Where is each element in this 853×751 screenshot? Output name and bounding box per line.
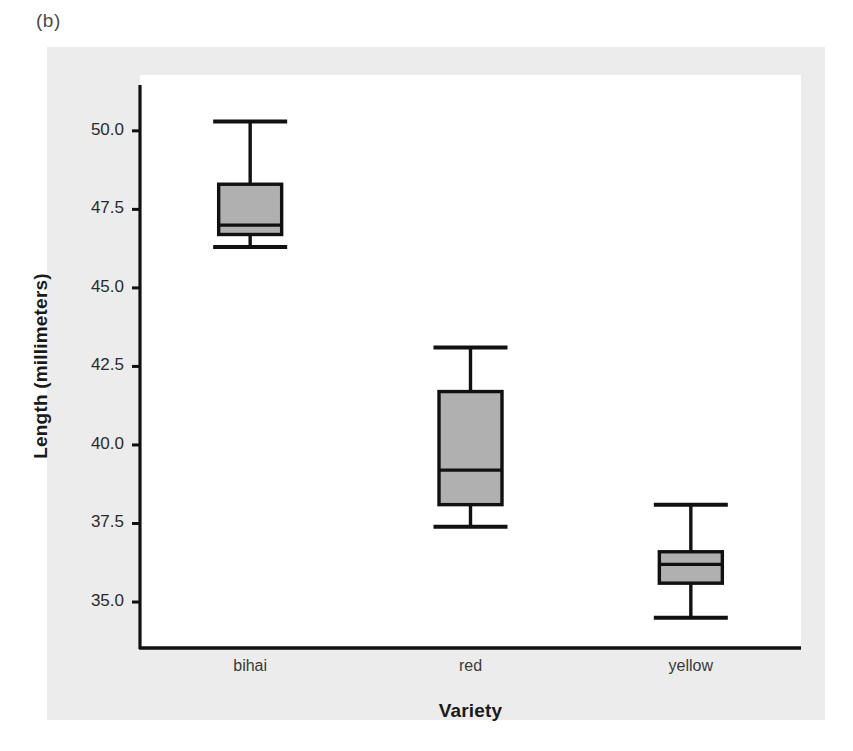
boxplot-graphic xyxy=(0,0,853,751)
box-plot-red xyxy=(434,348,508,527)
box-iqr xyxy=(659,552,722,583)
box-plot-series xyxy=(213,121,728,617)
box-iqr xyxy=(439,392,502,505)
box-plot-bihai xyxy=(213,121,287,247)
box-iqr xyxy=(219,184,282,234)
box-plot-yellow xyxy=(654,505,728,618)
figure-panel: (b) Length (millimeters) Variety 35.037.… xyxy=(0,0,853,751)
